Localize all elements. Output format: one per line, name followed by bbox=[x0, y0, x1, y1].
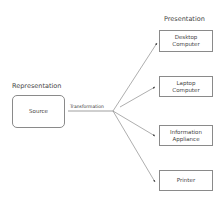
desktop-computer-box: Desktop Computer bbox=[159, 30, 213, 52]
laptop-line2: Computer bbox=[172, 87, 199, 94]
source-label: Source bbox=[29, 108, 48, 115]
arrow-to-desktop bbox=[113, 43, 157, 111]
presentation-heading: Presentation bbox=[164, 15, 205, 23]
desktop-line1: Desktop bbox=[172, 34, 199, 41]
laptop-computer-box: Laptop Computer bbox=[159, 76, 213, 97]
arrow-to-information-appliance bbox=[113, 111, 155, 136]
information-line1: Information bbox=[170, 129, 202, 136]
representation-heading: Representation bbox=[12, 82, 61, 90]
desktop-line2: Computer bbox=[172, 41, 199, 48]
printer-label: Printer bbox=[177, 177, 195, 184]
transformation-label: Transformation bbox=[70, 104, 104, 109]
arrow-to-printer bbox=[113, 111, 155, 182]
laptop-line1: Laptop bbox=[172, 80, 199, 87]
printer-box: Printer bbox=[159, 170, 213, 191]
source-box: Source bbox=[12, 95, 65, 128]
arrow-to-laptop bbox=[120, 87, 155, 107]
information-appliance-box: Information Appliance bbox=[159, 125, 213, 146]
information-line2: Appliance bbox=[170, 136, 202, 143]
